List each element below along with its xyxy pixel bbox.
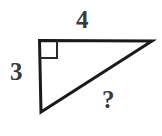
- geometry-figure-canvas: 4 3 ?: [0, 0, 162, 136]
- right-angle-marker-icon: [40, 41, 57, 58]
- side-label-hypotenuse: ?: [102, 87, 115, 112]
- side-label-top: 4: [76, 7, 89, 32]
- side-label-left: 3: [10, 59, 23, 84]
